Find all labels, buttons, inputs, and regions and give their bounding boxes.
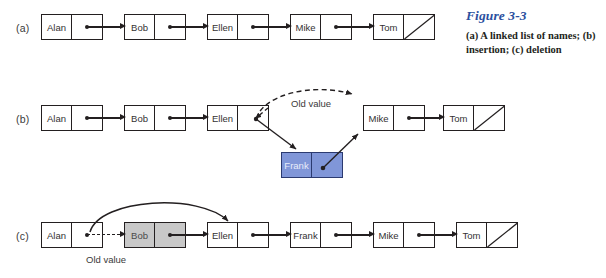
- node-data-cell: Tom: [457, 223, 487, 247]
- node-pointer-cell: [321, 15, 351, 39]
- node-b-frank-inserted: Frank: [281, 152, 343, 178]
- node-a-mike: Mike: [290, 14, 352, 40]
- node-data-cell: Bob: [125, 223, 155, 247]
- node-a-tom: Tom: [373, 14, 435, 40]
- node-pointer-cell: [312, 153, 342, 177]
- node-c-frank: Frank: [290, 222, 352, 248]
- node-data-cell: Bob: [125, 15, 155, 39]
- node-data-cell: Ellen: [208, 15, 238, 39]
- old-value-label-c: Old value: [86, 254, 126, 265]
- linked-list-figure: (a) Alan Bob Ellen Mike Tom (b): [0, 0, 606, 278]
- node-data-cell: Alan: [42, 223, 72, 247]
- node-a-bob: Bob: [124, 14, 186, 40]
- node-data-cell: Alan: [42, 106, 72, 130]
- node-pointer-cell: [238, 15, 268, 39]
- node-a-alan: Alan: [41, 14, 103, 40]
- node-pointer-cell: [155, 223, 185, 247]
- node-data-cell: Mike: [374, 223, 404, 247]
- node-data-cell: Mike: [364, 106, 394, 130]
- node-data-cell: Frank: [282, 153, 312, 177]
- node-pointer-cell: [155, 15, 185, 39]
- old-value-label-b: Old value: [291, 98, 331, 109]
- node-data-cell: Alan: [42, 15, 72, 39]
- node-c-alan: Alan: [41, 222, 103, 248]
- figure-caption: Figure 3-3 (a) A linked list of names; (…: [466, 8, 602, 57]
- node-data-cell: Frank: [291, 223, 321, 247]
- figure-title: Figure 3-3: [466, 8, 602, 24]
- node-pointer-cell-null: [487, 223, 517, 247]
- node-pointer-cell: [72, 15, 102, 39]
- row-label-a: (a): [16, 22, 29, 34]
- node-pointer-cell-null: [474, 106, 504, 130]
- node-c-bob-deleted: Bob: [124, 222, 186, 248]
- node-pointer-cell: [155, 106, 185, 130]
- node-pointer-cell: [238, 223, 268, 247]
- node-a-ellen: Ellen: [207, 14, 269, 40]
- node-pointer-cell: [394, 106, 424, 130]
- node-b-bob: Bob: [124, 105, 186, 131]
- node-c-mike: Mike: [373, 222, 435, 248]
- figure-description: (a) A linked list of names; (b) insertio…: [466, 29, 602, 57]
- node-b-ellen: Ellen: [207, 105, 269, 131]
- node-data-cell: Tom: [374, 15, 404, 39]
- node-pointer-cell: [238, 106, 268, 130]
- row-label-c: (c): [16, 230, 29, 242]
- node-b-alan: Alan: [41, 105, 103, 131]
- node-pointer-cell-null: [404, 15, 434, 39]
- node-b-tom: Tom: [443, 105, 505, 131]
- node-pointer-cell: [72, 223, 102, 247]
- node-data-cell: Ellen: [208, 223, 238, 247]
- node-pointer-cell: [321, 223, 351, 247]
- node-c-ellen: Ellen: [207, 222, 269, 248]
- node-data-cell: Tom: [444, 106, 474, 130]
- node-c-tom: Tom: [456, 222, 518, 248]
- node-data-cell: Bob: [125, 106, 155, 130]
- node-pointer-cell: [404, 223, 434, 247]
- node-data-cell: Mike: [291, 15, 321, 39]
- node-data-cell: Ellen: [208, 106, 238, 130]
- row-label-b: (b): [16, 113, 29, 125]
- node-pointer-cell: [72, 106, 102, 130]
- node-b-mike: Mike: [363, 105, 425, 131]
